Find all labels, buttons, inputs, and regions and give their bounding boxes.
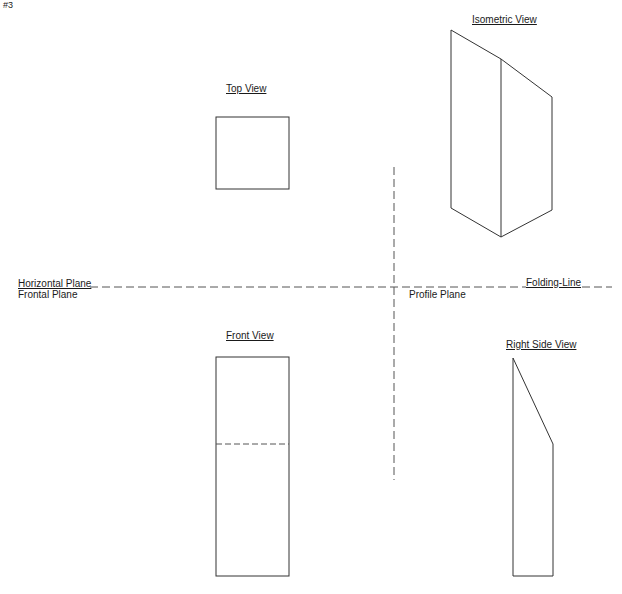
front-view-outline: [216, 357, 289, 576]
right-side-view-outline: [513, 358, 553, 576]
isometric-solid: [451, 30, 552, 237]
front-view-title: Front View: [226, 330, 274, 341]
top-view-title: Top View: [226, 83, 266, 94]
orthographic-drawing: [0, 0, 622, 594]
horizontal-plane-label: Horizontal Plane: [18, 278, 91, 289]
folding-line-label: Folding-Line: [526, 277, 581, 288]
isometric-view-title: Isometric View: [472, 14, 537, 25]
top-view-outline: [216, 117, 289, 189]
frontal-plane-label: Frontal Plane: [18, 289, 77, 300]
right-side-view-title: Right Side View: [506, 339, 576, 350]
profile-plane-label: Profile Plane: [409, 289, 466, 300]
